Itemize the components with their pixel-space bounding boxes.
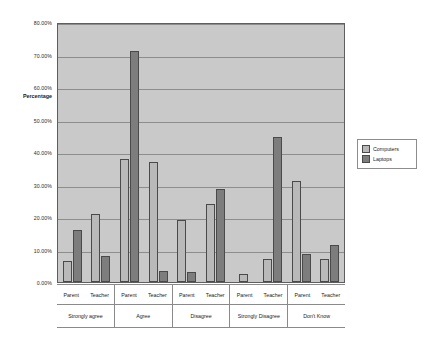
bar-computers — [120, 159, 129, 283]
category-group — [172, 24, 229, 282]
bar-computers — [320, 259, 329, 282]
y-axis-tick-label: 20.00% — [34, 215, 52, 221]
bar-computers — [292, 181, 301, 282]
legend-swatch-computers-icon — [362, 145, 370, 153]
x-axis-subcategory-label: Parent — [173, 285, 201, 305]
category-group — [230, 24, 287, 282]
subcategory-group — [87, 24, 116, 282]
plot-area — [57, 23, 345, 283]
x-axis-category-row: Strongly agreeAgreeDisagreeStrongly Disa… — [57, 304, 345, 328]
bar-laptops — [187, 272, 196, 282]
y-axis-tick-label: 80.00% — [34, 20, 52, 26]
chart-legend: Computers Laptops — [357, 139, 417, 169]
bar-computers — [63, 261, 72, 282]
bar-laptops — [130, 51, 139, 282]
bar-chart: Percentage 80.00%70.00%60.00%50.00%40.00… — [0, 0, 423, 345]
x-axis-subcategory-wrap: ParentTeacher — [173, 285, 231, 305]
x-axis-subcategory-wrap: ParentTeacher — [230, 285, 288, 305]
category-group — [115, 24, 172, 282]
bar-laptops — [73, 230, 82, 282]
x-axis-category-label: Disagree — [173, 305, 231, 327]
bar-laptops — [216, 189, 225, 282]
bar-laptops — [302, 254, 311, 282]
x-axis-subcategory-label: Teacher — [85, 285, 113, 305]
legend-item-computers: Computers — [362, 145, 413, 153]
x-axis-subcategory-label: Parent — [57, 285, 85, 305]
y-axis-title: Percentage — [23, 93, 52, 99]
legend-label-laptops: Laptops — [373, 156, 392, 162]
x-axis-subcategory-label: Parent — [115, 285, 143, 305]
bar-computers — [91, 214, 100, 282]
y-axis-tick-label: 70.00% — [34, 53, 52, 59]
x-axis-subcategory-label: Teacher — [259, 285, 287, 305]
subcategory-group — [172, 24, 201, 282]
bar-computers — [239, 274, 248, 282]
x-axis-subcategory-label: Parent — [288, 285, 316, 305]
subcategory-group — [315, 24, 344, 282]
legend-swatch-laptops-icon — [362, 155, 370, 163]
y-axis-tick-label: 60.00% — [34, 85, 52, 91]
x-axis-subcategory-wrap: ParentTeacher — [288, 285, 345, 305]
category-group — [287, 24, 344, 282]
y-axis-tick-label: 30.00% — [34, 183, 52, 189]
subcategory-group — [258, 24, 287, 282]
y-axis-tick-label: 40.00% — [34, 150, 52, 156]
subcategory-group — [287, 24, 316, 282]
legend-label-computers: Computers — [373, 146, 399, 152]
bar-laptops — [330, 245, 339, 282]
bar-computers — [206, 204, 215, 282]
bar-computers — [177, 220, 186, 282]
bar-groups — [58, 24, 344, 282]
y-axis-tick-label: 0.00% — [37, 280, 52, 286]
category-group — [58, 24, 115, 282]
subcategory-group — [115, 24, 144, 282]
legend-item-laptops: Laptops — [362, 155, 413, 163]
x-axis-subcategory-wrap: ParentTeacher — [115, 285, 173, 305]
x-axis-category-label: Strongly agree — [57, 305, 115, 327]
y-axis-tick-label: 10.00% — [34, 248, 52, 254]
x-axis-category-label: Agree — [115, 305, 173, 327]
bar-computers — [263, 259, 272, 282]
x-axis-subcategory-row: ParentTeacherParentTeacherParentTeacherP… — [57, 284, 345, 305]
x-axis-subcategory-wrap: ParentTeacher — [57, 285, 115, 305]
x-axis-category-label: Don't Know — [288, 305, 345, 327]
subcategory-group — [201, 24, 230, 282]
x-axis-subcategory-label: Teacher — [317, 285, 345, 305]
y-axis-tick-label: 50.00% — [34, 118, 52, 124]
bar-laptops — [101, 256, 110, 282]
bar-laptops — [159, 271, 168, 282]
x-axis: ParentTeacherParentTeacherParentTeacherP… — [57, 284, 345, 330]
bar-laptops — [273, 137, 282, 282]
x-axis-subcategory-label: Parent — [230, 285, 258, 305]
subcategory-group — [58, 24, 87, 282]
x-axis-category-label: Strongly Disagree — [230, 305, 288, 327]
x-axis-subcategory-label: Teacher — [201, 285, 229, 305]
subcategory-group — [144, 24, 173, 282]
x-axis-subcategory-label: Teacher — [143, 285, 171, 305]
subcategory-group — [230, 24, 259, 282]
y-axis: Percentage 80.00%70.00%60.00%50.00%40.00… — [0, 0, 56, 345]
bar-computers — [149, 162, 158, 282]
